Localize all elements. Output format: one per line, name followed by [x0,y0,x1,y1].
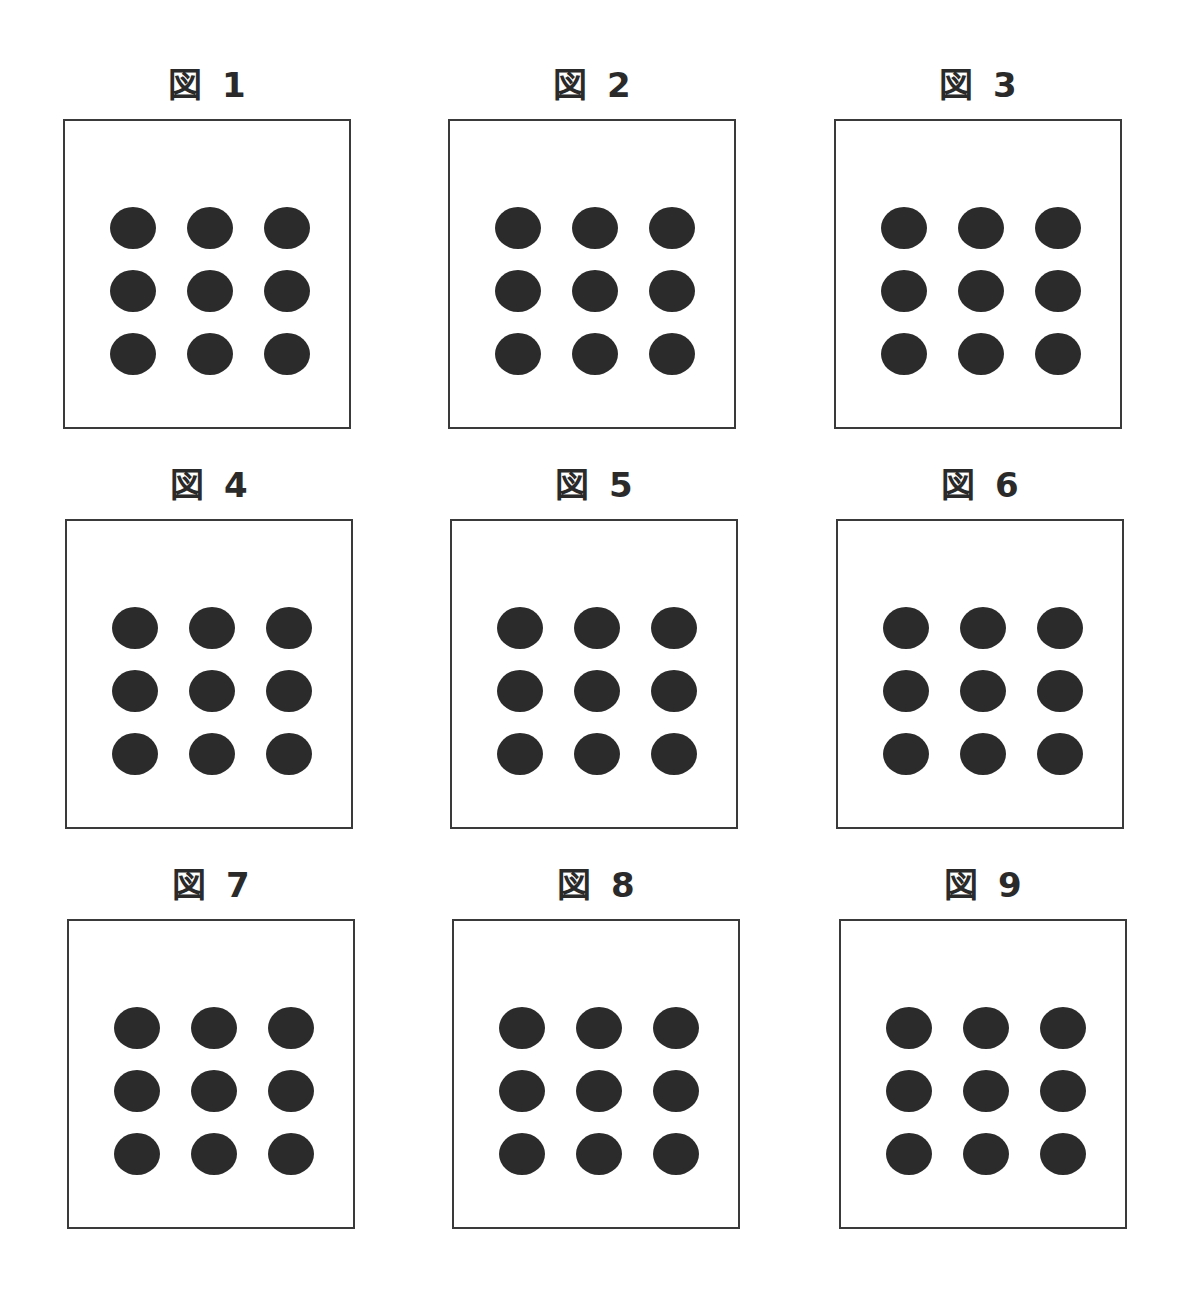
dot-icon [191,1070,237,1112]
dot-icon [110,270,156,312]
figure-frame [834,119,1122,429]
dot-icon [651,733,697,775]
dot-icon [651,607,697,649]
figure-frame [839,919,1127,1229]
dot-icon [499,1007,545,1049]
dot-icon [960,733,1006,775]
dot-icon [649,270,695,312]
dot-icon [268,1070,314,1112]
dot-icon [576,1133,622,1175]
dot-icon [187,270,233,312]
dot-icon [960,607,1006,649]
dot-icon [960,670,1006,712]
dot-icon [1037,670,1083,712]
dot-icon [572,333,618,375]
dot-icon [495,333,541,375]
dot-icon [495,270,541,312]
dot-icon [112,733,158,775]
dot-icon [958,333,1004,375]
dot-icon [264,270,310,312]
dot-icon [112,670,158,712]
dot-icon [1037,607,1083,649]
dot-icon [497,670,543,712]
dot-icon [266,607,312,649]
dot-icon [1040,1133,1086,1175]
dot-icon [883,607,929,649]
dot-icon [574,670,620,712]
dot-icon [264,333,310,375]
dot-icon [110,207,156,249]
dot-icon [883,670,929,712]
dot-icon [653,1133,699,1175]
dot-icon [266,733,312,775]
dot-icon [187,207,233,249]
dot-icon [110,333,156,375]
figure-frame [836,519,1124,829]
dot-icon [1040,1070,1086,1112]
dot-icon [963,1007,1009,1049]
figure-frame [452,919,740,1229]
dot-icon [886,1007,932,1049]
dot-icon [499,1133,545,1175]
dot-icon [886,1070,932,1112]
dot-icon [114,1133,160,1175]
dot-icon [572,270,618,312]
dot-icon [574,733,620,775]
dot-icon [112,607,158,649]
figure-label: 図 8 [452,865,744,905]
dot-icon [963,1133,1009,1175]
figure-label: 図 6 [836,465,1128,505]
dot-icon [114,1070,160,1112]
dot-icon [1037,733,1083,775]
dot-icon [497,607,543,649]
dot-icon [114,1007,160,1049]
dot-icon [653,1007,699,1049]
dot-icon [649,333,695,375]
dot-icon [576,1070,622,1112]
dot-icon [651,670,697,712]
dot-icon [1035,207,1081,249]
figure-frame [63,119,351,429]
figure-label: 図 2 [448,65,740,105]
dot-icon [881,207,927,249]
dot-icon [881,270,927,312]
dot-icon [495,207,541,249]
figure-frame [448,119,736,429]
figure-label: 図 4 [65,465,357,505]
dot-icon [649,207,695,249]
dot-icon [266,670,312,712]
figure-frame [67,919,355,1229]
dot-icon [497,733,543,775]
dot-icon [574,607,620,649]
dot-icon [268,1007,314,1049]
dot-icon [886,1133,932,1175]
figure-label: 図 5 [450,465,742,505]
dot-icon [958,270,1004,312]
dot-icon [1035,333,1081,375]
figure-label: 図 3 [834,65,1126,105]
dot-icon [958,207,1004,249]
dot-icon [499,1070,545,1112]
dot-icon [963,1070,1009,1112]
dot-icon [189,607,235,649]
dot-icon [881,333,927,375]
figure-frame [65,519,353,829]
figure-label: 図 9 [839,865,1131,905]
dot-icon [264,207,310,249]
dot-icon [187,333,233,375]
dot-icon [883,733,929,775]
dot-icon [1040,1007,1086,1049]
dot-icon [576,1007,622,1049]
dot-icon [653,1070,699,1112]
dot-icon [191,1007,237,1049]
dot-icon [1035,270,1081,312]
figure-label: 図 7 [67,865,359,905]
dot-icon [189,733,235,775]
figure-label: 図 1 [63,65,355,105]
figure-frame [450,519,738,829]
dot-icon [189,670,235,712]
dot-icon [572,207,618,249]
dot-icon [191,1133,237,1175]
dot-icon [268,1133,314,1175]
